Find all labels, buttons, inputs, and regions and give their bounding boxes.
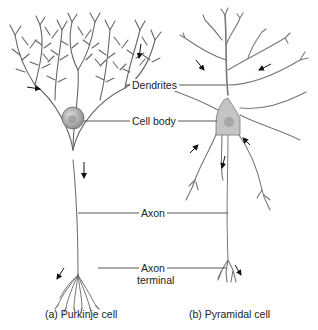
label-cell-body: Cell body xyxy=(130,115,178,127)
caption-purkinje: (a) Purkinje cell xyxy=(45,308,117,320)
label-axon-terminal-line1: Axon xyxy=(139,262,167,274)
label-axon: Axon xyxy=(139,207,167,219)
pyramidal-soma xyxy=(216,98,240,135)
label-axon-terminal-line2: terminal xyxy=(135,274,176,286)
label-leader-lines xyxy=(78,85,228,268)
pyramidal-cell xyxy=(172,8,308,282)
label-dendrites: Dendrites xyxy=(130,79,179,91)
caption-pyramidal: (b) Pyramidal cell xyxy=(189,308,270,320)
